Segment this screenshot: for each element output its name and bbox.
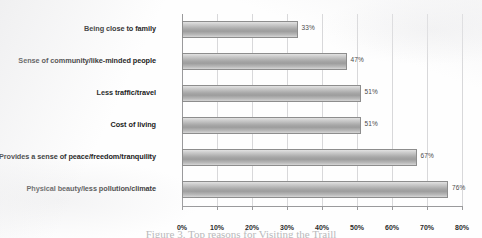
bar-value-label: 33%	[302, 24, 315, 31]
bar-value-label: 51%	[365, 120, 378, 127]
category-label: Provides a sense of peace/freedom/tranqu…	[0, 152, 156, 161]
bar-row: 76%	[182, 174, 462, 206]
bar-chart-figure: 33%47%51%51%67%76% Being close to family…	[0, 0, 482, 238]
bar[interactable]	[182, 85, 361, 102]
bar-row: 67%	[182, 142, 462, 174]
bar-value-label: 51%	[365, 88, 378, 95]
x-tick-mark	[182, 206, 183, 210]
bar[interactable]	[182, 53, 347, 70]
bar-row: 33%	[182, 14, 462, 46]
gridline	[462, 14, 463, 206]
bar[interactable]	[182, 149, 417, 166]
category-label: Less traffic/travel	[0, 88, 156, 97]
bar-value-label: 76%	[452, 184, 465, 191]
bar-row: 51%	[182, 110, 462, 142]
bar-row: 51%	[182, 78, 462, 110]
category-label: Sense of community/like-minded people	[0, 56, 156, 65]
bar[interactable]	[182, 181, 448, 198]
bar-value-label: 67%	[421, 152, 434, 159]
x-tick-mark	[252, 206, 253, 210]
x-tick-mark	[287, 206, 288, 210]
x-tick-mark	[462, 206, 463, 210]
plot-area: 33%47%51%51%67%76% Being close to family…	[182, 14, 462, 206]
x-tick-mark	[357, 206, 358, 210]
bar-row: 47%	[182, 46, 462, 78]
x-tick-mark	[322, 206, 323, 210]
category-label: Cost of living	[0, 120, 156, 129]
bar[interactable]	[182, 21, 298, 38]
x-tick-mark	[217, 206, 218, 210]
x-tick-mark	[427, 206, 428, 210]
figure-caption: Figure 3. Top reasons for Visiting the T…	[0, 228, 482, 238]
bar-value-label: 47%	[351, 56, 364, 63]
category-label: Being close to family	[0, 24, 156, 33]
bar[interactable]	[182, 117, 361, 134]
x-tick-mark	[392, 206, 393, 210]
category-label: Physical beauty/less pollution/climate	[0, 184, 156, 193]
